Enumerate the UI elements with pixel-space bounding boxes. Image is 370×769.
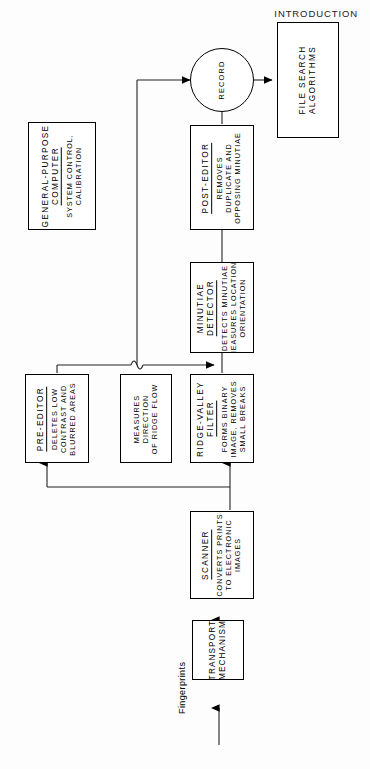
- scanner-desc-2: IMAGES: [234, 513, 243, 596]
- node-minutiae-detector[interactable]: MINUTIAE DETECTOR DETECTS MINUTIAE MEASU…: [190, 262, 254, 353]
- minutiae-desc-1: MEASURES LOCATION,: [229, 262, 238, 353]
- post-editor-title: POST-EDITOR: [201, 142, 212, 213]
- pre-editor-desc-1: CONTRAST AND: [59, 382, 68, 455]
- minutiae-desc-2: ORIENTATION: [239, 262, 248, 353]
- transport-title-line1: TRANSPORT: [208, 620, 218, 680]
- transport-title-line2: MECHANISM: [218, 620, 228, 680]
- flow-label-fingerprints: Fingerprints: [177, 662, 187, 714]
- gpc-title-line1: GENERAL-PURPOSE: [41, 125, 51, 228]
- node-file-search-algorithms[interactable]: FILE SEARCH ALGORITHMS: [277, 22, 339, 138]
- record-title: RECORD: [217, 60, 226, 99]
- rvf-desc-0: FORMS BINARY: [220, 380, 229, 457]
- gpc-desc-1: CALIBRATION: [74, 134, 83, 218]
- measures-desc-0: MEASURES: [132, 383, 141, 454]
- node-record[interactable]: RECORD: [190, 48, 254, 112]
- pre-editor-title: PRE-EDITOR: [36, 386, 47, 450]
- minutiae-title-line2: DETECTOR: [206, 279, 217, 335]
- rvf-title-line2: FILTER: [206, 401, 217, 437]
- node-measures-ridge-flow[interactable]: MEASURES DIRECTION OF RIDGE FLOW: [120, 374, 172, 463]
- node-pre-editor[interactable]: PRE-EDITOR DELETES LOW CONTRAST AND BLUR…: [25, 374, 89, 463]
- pre-editor-desc-0: DELETES LOW: [50, 382, 59, 455]
- scanner-desc-0: CONVERTS PRINTS: [215, 513, 224, 596]
- gpc-desc-0: SYSTEM CONTROL,: [65, 134, 74, 218]
- node-post-editor[interactable]: POST-EDITOR REMOVES DUPLICATE AND OPPOSI…: [190, 125, 254, 230]
- node-transport-mechanism[interactable]: TRANSPORT MECHANISM: [192, 620, 244, 680]
- page-header-introduction: INTRODUCTION: [274, 8, 358, 19]
- measures-desc-2: OF RIDGE FLOW: [151, 383, 160, 454]
- gpc-title-line2: COMPUTER: [51, 147, 62, 205]
- diagram-page: INTRODUCTION: [0, 0, 370, 769]
- post-editor-desc-0: REMOVES: [215, 132, 224, 224]
- file-search-title-line1: FILE SEARCH: [298, 45, 308, 114]
- node-ridge-valley-filter[interactable]: RIDGE-VALLEY FILTER FORMS BINARY IMAGE, …: [190, 374, 254, 463]
- rvf-desc-2: SMALL BREAKS: [239, 380, 248, 457]
- scanner-title: SCANNER: [201, 530, 212, 580]
- scanner-desc-1: TO ELECTRONIC: [224, 513, 233, 596]
- rvf-title-line1: RIDGE-VALLEY: [196, 381, 206, 457]
- minutiae-title-line1: MINUTIAE: [196, 279, 206, 335]
- rvf-desc-1: IMAGE, REMOVES: [229, 380, 238, 457]
- post-editor-desc-2: OPPOSING MINUTIAE: [234, 132, 243, 224]
- node-scanner[interactable]: SCANNER CONVERTS PRINTS TO ELECTRONIC IM…: [190, 511, 254, 599]
- measures-desc-1: DIRECTION: [141, 383, 150, 454]
- wire-line-hop: [131, 361, 143, 369]
- post-editor-desc-1: DUPLICATE AND: [224, 132, 233, 224]
- node-general-purpose-computer[interactable]: GENERAL-PURPOSE COMPUTER SYSTEM CONTROL,…: [28, 122, 96, 230]
- pre-editor-desc-2: BLURRED AREAS: [69, 382, 78, 455]
- minutiae-desc-0: DETECTS MINUTIAE: [220, 262, 229, 353]
- file-search-title-line2: ALGORITHMS: [308, 45, 318, 114]
